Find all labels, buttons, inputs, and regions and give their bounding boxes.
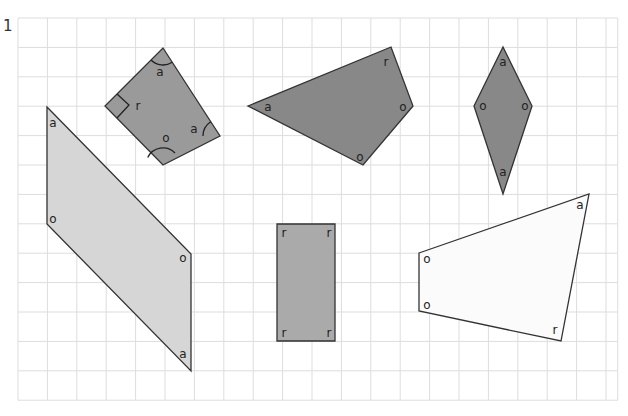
angle-label: r xyxy=(553,323,558,337)
angle-label: r xyxy=(282,326,287,340)
angle-label: r xyxy=(384,55,389,69)
angle-label: a xyxy=(49,116,56,130)
angle-label: a xyxy=(179,347,186,361)
angle-label: o xyxy=(423,252,430,266)
angle-label: r xyxy=(136,99,141,113)
angle-label: a xyxy=(499,55,506,69)
angle-label: o xyxy=(162,131,169,145)
angle-label: r xyxy=(327,226,332,240)
angle-label: o xyxy=(479,99,486,113)
angle-label: a xyxy=(156,65,163,79)
angle-label: o xyxy=(521,99,528,113)
angle-label: a xyxy=(576,198,583,212)
rectangle xyxy=(277,224,335,341)
angle-label: o xyxy=(49,212,56,226)
quadrilateral-light xyxy=(419,194,589,341)
angle-label: a xyxy=(190,122,197,136)
angle-label: o xyxy=(179,251,186,265)
angle-label: o xyxy=(423,298,430,312)
angle-label: o xyxy=(356,150,363,164)
angle-label: r xyxy=(282,226,287,240)
angle-label: o xyxy=(399,100,406,114)
angle-label: a xyxy=(499,165,506,179)
angle-label: r xyxy=(327,326,332,340)
geometry-canvas: araoarooaooaaooarrrraoor xyxy=(0,0,628,416)
angle-label: a xyxy=(264,100,271,114)
